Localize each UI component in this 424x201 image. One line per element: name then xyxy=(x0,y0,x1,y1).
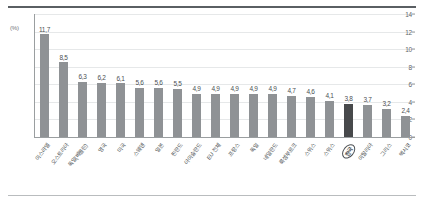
bar[interactable] xyxy=(268,94,277,137)
category-slot: 그리스 xyxy=(377,139,396,189)
category-label: 그리스 xyxy=(378,142,393,158)
bar[interactable] xyxy=(78,82,87,137)
bar-value-label: 4,9 xyxy=(249,85,257,92)
bar-slot: 2,4 xyxy=(396,14,415,137)
bar[interactable] xyxy=(287,96,296,137)
category-slot: 독일(베를린) xyxy=(73,139,92,189)
bar-slot: 3,7 xyxy=(358,14,377,137)
bar[interactable] xyxy=(306,97,315,137)
bar-slot: 4,6 xyxy=(301,14,320,137)
bar-slot: 4,9 xyxy=(263,14,282,137)
category-label: 핀란드 xyxy=(169,142,184,158)
bar-value-label: 8,5 xyxy=(59,54,67,61)
bar-slot: 6,1 xyxy=(111,14,130,137)
bar[interactable] xyxy=(40,34,49,137)
category-label: 영국 xyxy=(96,142,108,154)
bar-slot: 11,7 xyxy=(35,14,54,137)
category-slot: 멕시코 xyxy=(396,139,415,189)
bar-value-label: 4,9 xyxy=(268,85,276,92)
category-label: 프랑스 xyxy=(226,142,241,158)
bar-slot: 4,9 xyxy=(244,14,263,137)
bar[interactable] xyxy=(211,94,220,137)
bar-value-label: 4,9 xyxy=(211,85,219,92)
bar-slot: 3,8 xyxy=(339,14,358,137)
bar-slot: 8,5 xyxy=(54,14,73,137)
bar-value-label: 3,7 xyxy=(363,96,371,103)
bar-value-label: 2,4 xyxy=(401,107,409,114)
category-label: EU 전체 xyxy=(204,142,222,161)
bar[interactable] xyxy=(97,83,106,137)
category-label: 스위스 xyxy=(302,142,317,158)
bar-value-label: 6,3 xyxy=(78,73,86,80)
bar-slot: 5,6 xyxy=(149,14,168,137)
category-label: 스위스 xyxy=(321,142,336,158)
bar[interactable] xyxy=(59,62,68,137)
bar-slot: 5,5 xyxy=(168,14,187,137)
bar[interactable] xyxy=(401,116,410,137)
bottom-rule xyxy=(8,195,416,196)
plot-area: (%) 14121086420 11,78,56,36,26,15,65,65,… xyxy=(8,14,416,190)
category-slot: 이탈리아 xyxy=(358,139,377,189)
bar-value-label: 5,6 xyxy=(154,79,162,86)
bar-slot: 3,2 xyxy=(377,14,396,137)
category-label: 네덜란드 xyxy=(261,142,279,162)
bar-value-label: 3,2 xyxy=(382,100,390,107)
category-slot: 영국 xyxy=(92,139,111,189)
bar-slot: 4,7 xyxy=(282,14,301,137)
bar-slot: 4,9 xyxy=(225,14,244,137)
category-slot: 스위스 xyxy=(320,139,339,189)
bar-slot: 4,9 xyxy=(187,14,206,137)
x-axis-line xyxy=(34,137,415,138)
category-slot: EU 전체 xyxy=(206,139,225,189)
bar-series: 11,78,56,36,26,15,65,65,54,94,94,94,94,9… xyxy=(35,14,415,137)
y-axis-unit-label: (%) xyxy=(10,25,19,31)
bar[interactable] xyxy=(116,83,125,137)
bar-slot: 5,6 xyxy=(130,14,149,137)
bar-value-label: 4,1 xyxy=(325,92,333,99)
category-slot: 이스라엘 xyxy=(35,139,54,189)
category-slot: 룩셈부르크 xyxy=(282,139,301,189)
category-slot: 미국 xyxy=(111,139,130,189)
bar[interactable] xyxy=(363,105,372,138)
category-label: 독일 xyxy=(248,142,260,154)
category-slot: 스위스 xyxy=(301,139,320,189)
bar-value-label: 4,6 xyxy=(306,88,314,95)
bar[interactable] xyxy=(135,88,144,137)
category-label: 멕시코 xyxy=(397,142,412,158)
category-labels: 이스라엘오스트리아독일(베를린)영국미국스웨덴일본핀란드아이슬란드EU 전체프랑… xyxy=(35,139,415,189)
category-label: 이탈리아 xyxy=(356,142,374,162)
category-slot: 네덜란드 xyxy=(263,139,282,189)
category-slot: 프랑스 xyxy=(225,139,244,189)
category-slot: 한국 xyxy=(339,139,358,189)
bar[interactable] xyxy=(154,88,163,137)
category-label: 일본 xyxy=(153,142,165,154)
category-label: 이스라엘 xyxy=(33,142,51,162)
bar-slot: 4,1 xyxy=(320,14,339,137)
bar[interactable] xyxy=(325,101,334,137)
bar-value-label: 4,9 xyxy=(230,85,238,92)
bar-slot: 6,3 xyxy=(73,14,92,137)
bar-value-label: 6,1 xyxy=(116,75,124,82)
bar-value-label: 4,9 xyxy=(192,85,200,92)
chart-figure: (%) 14121086420 11,78,56,36,26,15,65,65,… xyxy=(0,0,424,201)
y-axis: (%) xyxy=(8,14,34,147)
bar-value-label: 5,6 xyxy=(135,79,143,86)
bar[interactable] xyxy=(173,89,182,137)
category-slot: 스웨덴 xyxy=(130,139,149,189)
category-label: 미국 xyxy=(115,142,127,154)
bar[interactable] xyxy=(192,94,201,137)
bar-value-label: 11,7 xyxy=(39,26,50,33)
category-slot: 독일 xyxy=(244,139,263,189)
bar-highlighted[interactable] xyxy=(344,104,353,137)
category-slot: 일본 xyxy=(149,139,168,189)
bar-value-label: 5,5 xyxy=(173,80,181,87)
category-label: 스웨덴 xyxy=(131,142,146,158)
bar[interactable] xyxy=(230,94,239,137)
bar-slot: 6,2 xyxy=(92,14,111,137)
bar[interactable] xyxy=(382,109,391,137)
bar[interactable] xyxy=(249,94,258,137)
category-slot: 아이슬란드 xyxy=(187,139,206,189)
bar-value-label: 6,2 xyxy=(97,74,105,81)
top-rule xyxy=(8,6,416,8)
category-label: 한국 xyxy=(339,142,357,161)
